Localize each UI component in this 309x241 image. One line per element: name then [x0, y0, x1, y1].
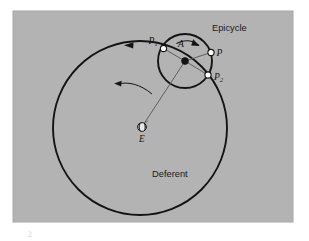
label-deferent: Deferent [152, 169, 188, 179]
label-point-p1-subscript: 1 [155, 40, 158, 47]
caption-mark: 2 [28, 230, 32, 239]
label-point-p: P [216, 47, 223, 58]
figure-root: Epicycle Deferent A P P 1 P 2 E 2 [0, 0, 309, 241]
label-earth-E: E [138, 134, 145, 144]
epicycle-center-marker [182, 58, 189, 65]
point-p1-marker [160, 45, 166, 51]
label-point-p2-base: P [213, 71, 220, 82]
epicycle-deferent-diagram: Epicycle Deferent A P P 1 P 2 E 2 [0, 0, 309, 241]
label-point-p2-subscript: 2 [220, 76, 223, 83]
label-epicycle-center-A: A [177, 38, 184, 49]
label-epicycle: Epicycle [212, 23, 247, 33]
point-p-marker [208, 49, 214, 55]
label-point-p1-base: P [148, 35, 155, 46]
point-p2-marker [205, 72, 211, 78]
